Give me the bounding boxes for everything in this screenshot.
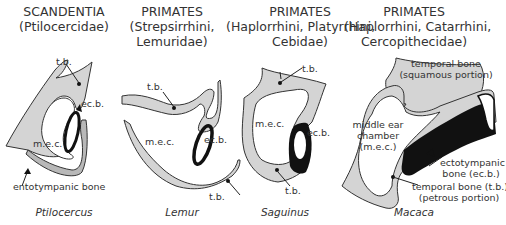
- macaca-petrous-line2: (petrous portion): [412, 192, 506, 203]
- macaca-petrous-line1: temporal bone (t.b.): [412, 181, 506, 192]
- lemur-tb-bottom-label: t.b.: [209, 191, 225, 202]
- panel-2-family-line1: (Strepsirrhini,: [122, 19, 222, 34]
- ptilocercus-mec-label: m.e.c.: [33, 138, 62, 149]
- lemur-ecb-label: ec.b.: [204, 134, 227, 145]
- ptilocercus-genus: Ptilocercus: [8, 206, 120, 218]
- panel-2-family-line2: Lemuridae): [122, 34, 222, 49]
- macaca-mec-line2: chamber: [346, 130, 410, 141]
- saguinus-tb-bottom-label: t.b.: [285, 185, 301, 196]
- macaca-ecb-label: ectotympanic bone (ec.b.): [440, 157, 502, 179]
- ptilocercus-tb-label: t.b.: [56, 56, 72, 67]
- panel-1-family: (Ptilocercidae): [8, 19, 120, 34]
- saguinus-tb-top-label: t.b.: [302, 63, 318, 74]
- lemur-tb-top-label: t.b.: [147, 81, 163, 92]
- saguinus-ecb-label: ec.b.: [307, 127, 330, 138]
- panel-4-header: PRIMATES (Haplorrhini, Catarrhini, Cerco…: [344, 4, 484, 49]
- ptilocercus-ecb-label: ec.b.: [81, 98, 104, 109]
- saguinus-mec-label: m.e.c.: [255, 118, 284, 129]
- panel-1-order: SCANDENTIA: [8, 4, 120, 19]
- panel-2-order: PRIMATES: [122, 4, 222, 19]
- temporal-bone-lower-shape: [124, 120, 240, 189]
- saguinus-genus: Saguinus: [250, 206, 320, 218]
- macaca-squamous-line2: (squamous portion): [396, 69, 496, 80]
- lemur-genus: Lemur: [152, 206, 212, 218]
- ectotympanic-ring: [190, 124, 216, 166]
- ptilocercus-drawing: [6, 60, 92, 186]
- macaca-petrous-label: temporal bone (t.b.) (petrous portion): [412, 181, 506, 203]
- panel-2-header: PRIMATES (Strepsirrhini, Lemuridae): [122, 4, 222, 49]
- panel-4-order: PRIMATES: [344, 4, 484, 19]
- temporal-bone-shape: [122, 80, 221, 132]
- macaca-ecb-line2: bone (ec.b.): [440, 168, 502, 179]
- panel-4-family-line1: (Haplorrhini, Catarrhini,: [344, 19, 484, 34]
- panel-1-header: SCANDENTIA (Ptilocercidae): [8, 4, 120, 34]
- panel-4-family-line2: Cercopithecidae): [344, 34, 484, 49]
- ear-anatomy-diagram: SCANDENTIA (Ptilocercidae) PRIMATES (Str…: [0, 0, 506, 225]
- macaca-mec-line3: (m.e.c.): [346, 141, 410, 152]
- macaca-mec-label: middle ear chamber (m.e.c.): [346, 119, 410, 152]
- macaca-squamous-line1: temporal bone: [396, 58, 496, 69]
- ptilocercus-entotympanic-label: entotympanic bone: [13, 181, 105, 192]
- macaca-genus: Macaca: [384, 206, 444, 218]
- macaca-mec-line1: middle ear: [346, 119, 410, 130]
- macaca-ecb-line1: ectotympanic: [440, 157, 502, 168]
- lemur-mec-label: m.e.c.: [145, 136, 174, 147]
- macaca-squamous-label: temporal bone (squamous portion): [396, 58, 496, 80]
